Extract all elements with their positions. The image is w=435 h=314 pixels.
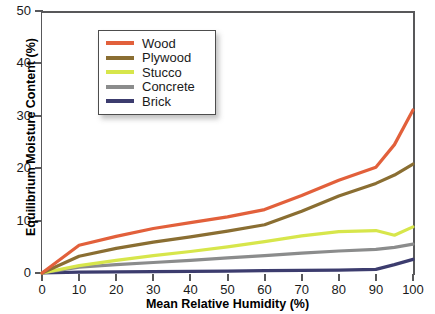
y-tick-label: 0	[0, 266, 31, 279]
x-tick-mark	[227, 274, 229, 281]
legend-item-wood: Wood	[104, 36, 209, 50]
legend-label: Wood	[142, 37, 176, 50]
x-tick-label: 70	[282, 283, 322, 296]
x-tick-mark	[301, 274, 303, 281]
legend-swatch-brick	[106, 99, 134, 103]
x-tick-label: 40	[170, 283, 210, 296]
legend-item-stucco: Stucco	[104, 65, 209, 79]
x-tick-label: 60	[245, 283, 285, 296]
x-tick-label: 90	[356, 283, 396, 296]
y-axis-title: Equilibrium Moisture Content (%)	[24, 12, 38, 262]
x-tick-label: 50	[208, 283, 248, 296]
legend-swatch-plywood	[106, 56, 134, 60]
legend-item-plywood: Plywood	[104, 51, 209, 65]
x-tick-label: 100	[393, 283, 433, 296]
legend-swatch-stucco	[106, 70, 134, 74]
x-tick-label: 80	[319, 283, 359, 296]
x-axis-title: Mean Relative Humidity (%)	[42, 297, 413, 311]
x-tick-label: 20	[96, 283, 136, 296]
x-tick-mark	[115, 274, 117, 281]
x-tick-mark	[338, 274, 340, 281]
x-tick-mark	[78, 274, 80, 281]
x-tick-mark	[41, 274, 43, 281]
legend-label: Stucco	[142, 66, 182, 79]
x-tick-mark	[412, 274, 414, 281]
legend-item-brick: Brick	[104, 94, 209, 108]
legend-label: Concrete	[142, 80, 195, 93]
chart-legend: WoodPlywoodStuccoConcreteBrick	[98, 30, 216, 115]
x-tick-mark	[264, 274, 266, 281]
x-tick-mark	[152, 274, 154, 281]
x-tick-mark	[189, 274, 191, 281]
legend-swatch-concrete	[106, 85, 134, 89]
legend-label: Plywood	[142, 51, 191, 64]
legend-swatch-wood	[106, 41, 134, 45]
x-tick-label: 0	[22, 283, 62, 296]
x-tick-label: 30	[133, 283, 173, 296]
legend-label: Brick	[142, 95, 171, 108]
chart-figure: 01020304050 0102030405060708090100 Equil…	[0, 0, 435, 314]
x-tick-mark	[375, 274, 377, 281]
legend-item-concrete: Concrete	[104, 80, 209, 94]
x-tick-label: 10	[59, 283, 99, 296]
